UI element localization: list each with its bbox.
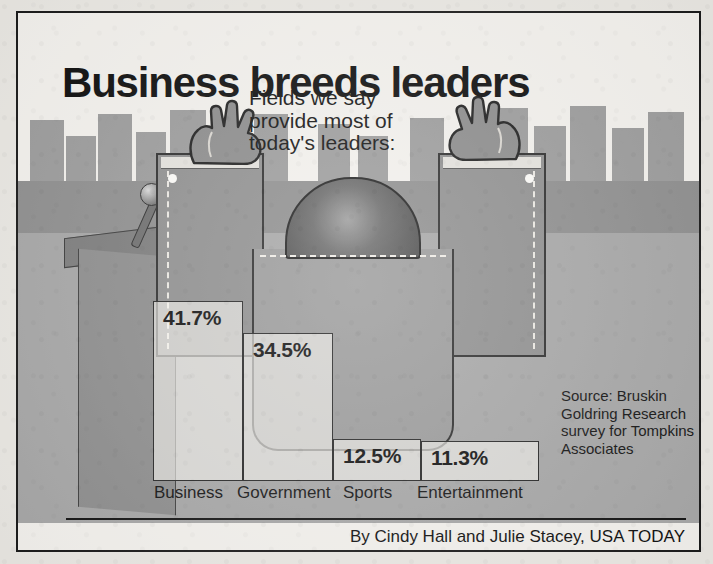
bar-sports: 12.5% [333,439,421,481]
bar-value-entertainment: 11.3% [431,446,488,470]
bar-value-government: 34.5% [253,338,311,362]
bar-government: 34.5% [243,333,333,481]
category-label-sports: Sports [343,483,392,503]
byline: By Cindy Hall and Julie Stacey, USA TODA… [350,527,685,547]
bar-value-sports: 12.5% [343,444,401,468]
category-label-business: Business [154,483,223,503]
chart-subtitle: Fields we say provide most of today's le… [249,87,399,155]
category-label-government: Government [237,483,331,503]
category-label-entertainment: Entertainment [417,483,523,503]
bar-value-business: 41.7% [163,306,221,330]
usa-today-infographic: 41.7% 34.5% 12.5% 11.3% Business Governm… [0,0,713,564]
bar-entertainment: 11.3% [421,441,539,481]
byline-divider [66,518,686,520]
infographic-frame: 41.7% 34.5% 12.5% 11.3% Business Governm… [16,11,701,552]
source-note: Source: Bruskin Goldring Research survey… [561,387,701,458]
bar-business: 41.7% [153,301,243,481]
